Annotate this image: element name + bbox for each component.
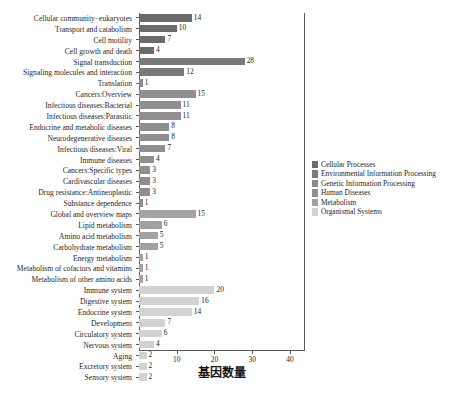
bar-value-label: 5 [160,241,164,250]
category-label: Cell motility [0,35,136,46]
bar [139,25,177,33]
bar-value-label: 7 [167,317,171,326]
bar-row: 14 [139,13,305,24]
bar [139,90,196,98]
bar-row: 6 [139,220,305,231]
bar [139,101,181,109]
bar-row: 7 [139,144,305,155]
category-label: Transport and catabolism [0,24,136,35]
bar [139,156,154,164]
x-tick-mark [177,351,178,354]
bar-value-label: 28 [247,56,254,65]
x-tick-label: 20 [211,355,218,364]
category-label: Sensory system [0,372,136,383]
x-tick-mark [290,351,291,354]
bar-row: 1 [139,274,305,285]
bar [139,275,143,283]
bar [139,319,165,327]
bar-row: 10 [139,24,305,35]
bar [139,123,169,131]
legend-label: Genetic Information Processing [321,180,415,188]
bar-row: 5 [139,242,305,253]
bar [139,166,150,174]
bar-value-label: 14 [194,307,201,316]
bar-value-label: 11 [183,111,190,120]
category-label: Excretory system [0,362,136,373]
bar [139,134,169,142]
category-label: Cellular community−eukaryotes [0,13,136,24]
legend-item: Human Diseases [312,189,454,198]
bar-row: 11 [139,100,305,111]
bar-row: 4 [139,46,305,57]
bar-value-label: 11 [183,100,190,109]
legend-swatch [312,208,318,215]
bar [139,308,192,316]
bar [139,188,150,196]
bar-value-label: 5 [160,230,164,239]
bar [139,68,184,76]
bar-row: 7 [139,35,305,46]
category-label: Endocrine and metabolic diseases [0,122,136,133]
category-label: Lipid metabolism [0,220,136,231]
category-label: Infectious diseases:Parasitic [0,111,136,122]
category-label: Translation [0,78,136,89]
bar [139,36,165,44]
legend-label: Human Diseases [321,189,370,197]
legend-swatch [312,180,318,187]
bar [139,232,158,240]
bar-row: 14 [139,307,305,318]
category-label: Metabolism of other amino acids [0,274,136,285]
bar-row: 4 [139,155,305,166]
bar-row: 15 [139,89,305,100]
bar-value-label: 3 [152,165,156,174]
x-tick-label: 30 [248,355,255,364]
bar-value-label: 4 [156,154,160,163]
legend-swatch [312,199,318,206]
legend-item: Environmental Information Processing [312,170,454,179]
bar-row: 28 [139,57,305,68]
bar-value-label: 4 [156,45,160,54]
bar-row: 12 [139,67,305,78]
chart-root: Cellular community−eukaryotesTransport a… [0,0,456,401]
category-axis-labels: Cellular community−eukaryotesTransport a… [0,13,136,351]
bar-value-label: 20 [216,285,223,294]
bar-value-label: 3 [152,176,156,185]
bar [139,243,158,251]
bar [139,286,214,294]
bar-value-label: 6 [164,328,168,337]
bar-row: 1 [139,198,305,209]
bar-value-label: 8 [171,121,175,130]
category-label: Immune diseases [0,155,136,166]
legend-item: Metabolism [312,199,454,208]
bar-value-label: 6 [164,219,168,228]
bar-value-label: 7 [167,34,171,43]
bar [139,47,154,55]
bar-row: 15 [139,209,305,220]
bar [139,330,162,338]
bar-value-label: 15 [198,89,205,98]
bar-row: 8 [139,122,305,133]
legend-label: Organismal Systems [321,208,382,216]
category-label: Signaling molecules and interaction [0,67,136,78]
category-label: Signal transduction [0,57,136,68]
bar [139,221,162,229]
category-label: Infectious diseases:Bacterial [0,100,136,111]
bar [139,112,181,120]
legend-label: Environmental Information Processing [321,170,436,178]
category-label: Infectious diseases:Viral [0,144,136,155]
bar-value-label: 10 [179,23,186,32]
category-label: Amino acid metabolism [0,231,136,242]
category-label: Energy metabolism [0,253,136,264]
bar-row: 20 [139,285,305,296]
bar-value-label: 1 [145,263,149,272]
bar [139,79,143,87]
bar [139,177,150,185]
bar [139,14,192,22]
legend-label: Metabolism [321,199,356,207]
category-label: Cell growth and death [0,46,136,57]
bar-value-label: 7 [167,143,171,152]
category-label: Endocrine system [0,307,136,318]
category-label: Circulatory system [0,329,136,340]
category-label: Neurodegenerative diseases [0,133,136,144]
bar-value-label: 8 [171,132,175,141]
